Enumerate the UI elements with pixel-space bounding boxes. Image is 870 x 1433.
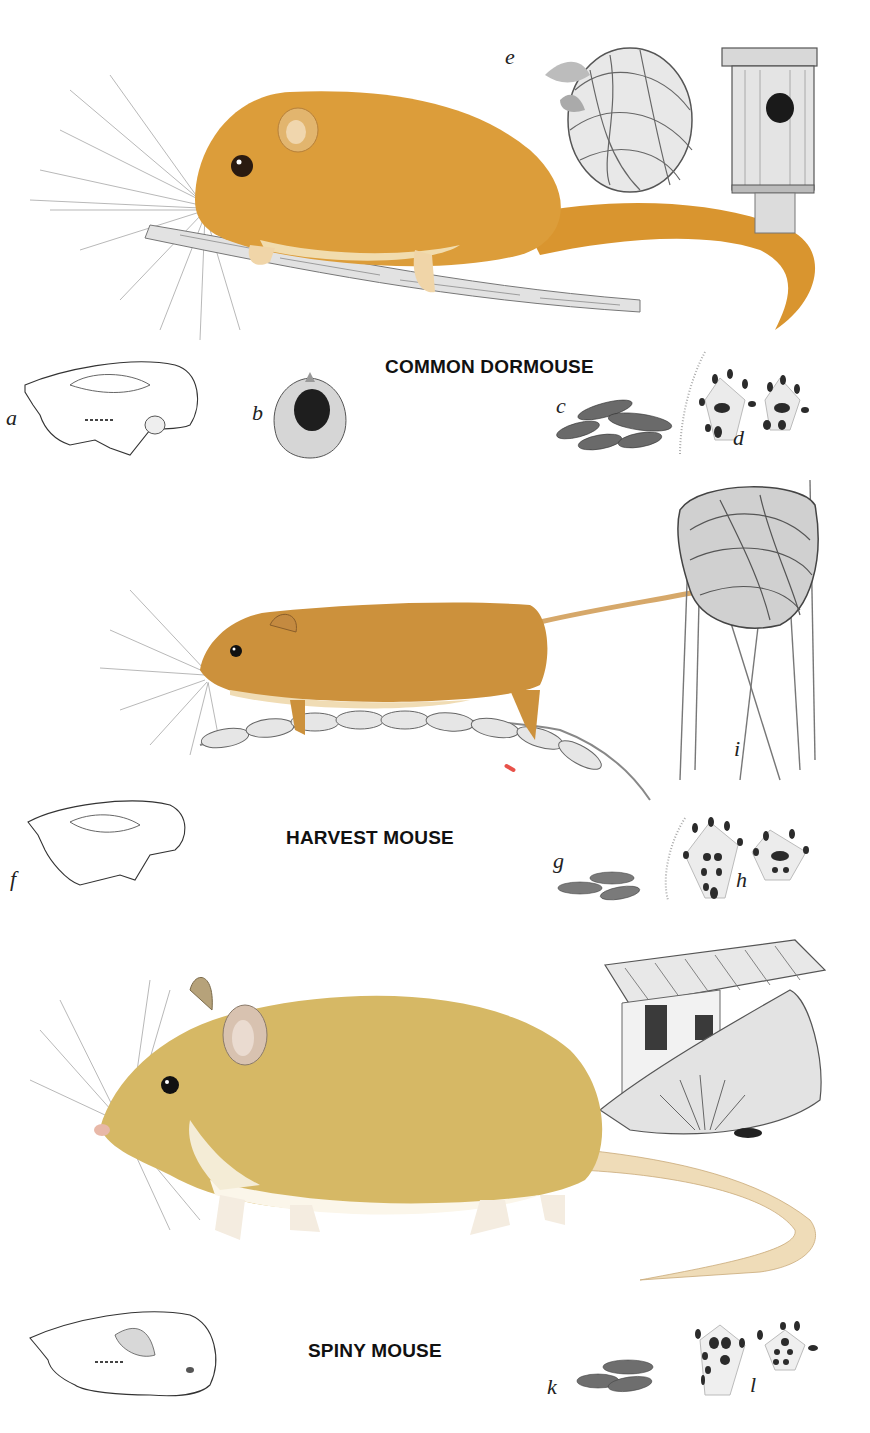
figure-label-l: l (750, 1372, 756, 1398)
spiny-mouse-footprints-illustration (0, 0, 870, 1433)
